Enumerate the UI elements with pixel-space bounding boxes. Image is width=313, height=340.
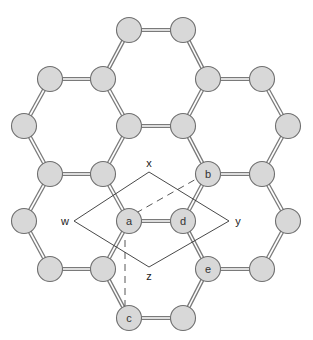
atom-circle — [117, 114, 142, 139]
atom — [171, 114, 196, 139]
atom-circle — [250, 67, 275, 92]
atom — [250, 162, 275, 187]
atom-e: e — [196, 257, 221, 282]
atom — [117, 114, 142, 139]
atom-circle — [276, 209, 301, 234]
atom-circle — [38, 67, 63, 92]
atom-circle — [91, 257, 116, 282]
atom-label-c: c — [126, 312, 132, 324]
atom — [38, 162, 63, 187]
atom-circle — [250, 162, 275, 187]
atom-d: d — [171, 209, 196, 234]
vertex-label-z: z — [146, 270, 152, 282]
atom — [91, 67, 116, 92]
atom-circle — [12, 114, 37, 139]
vertex-label-y: y — [235, 215, 241, 227]
atom — [276, 209, 301, 234]
atom — [250, 257, 275, 282]
atom — [276, 114, 301, 139]
atom — [91, 162, 116, 187]
atom — [12, 114, 37, 139]
atom — [38, 257, 63, 282]
atom-circle — [171, 18, 196, 43]
atom-circle — [171, 114, 196, 139]
atom-circle — [276, 114, 301, 139]
atom-circle — [91, 67, 116, 92]
atom-circle — [196, 67, 221, 92]
atom-label-e: e — [205, 263, 211, 275]
atom-circle — [38, 257, 63, 282]
atom-circle — [117, 18, 142, 43]
atoms-layer: badec — [12, 18, 301, 331]
atom — [117, 18, 142, 43]
atom — [171, 18, 196, 43]
atom — [171, 306, 196, 331]
atom-b: b — [196, 162, 221, 187]
bonds-layer — [24, 30, 288, 318]
graphene-lattice-diagram: badec w x y z — [0, 0, 313, 340]
atom-c: c — [117, 306, 142, 331]
atom-circle — [12, 209, 37, 234]
atom-circle — [38, 162, 63, 187]
atom — [38, 67, 63, 92]
atom — [250, 67, 275, 92]
atom — [12, 209, 37, 234]
atom-circle — [250, 257, 275, 282]
atom-circle — [171, 306, 196, 331]
atom-circle — [91, 162, 116, 187]
atom-label-d: d — [180, 215, 186, 227]
atom — [196, 67, 221, 92]
vertex-label-x: x — [146, 157, 152, 169]
atom-a: a — [117, 209, 142, 234]
vertex-label-w: w — [60, 215, 69, 227]
atom — [91, 257, 116, 282]
atom-label-b: b — [205, 168, 211, 180]
atom-label-a: a — [126, 215, 133, 227]
dashed-lattice-vectors — [125, 178, 198, 306]
